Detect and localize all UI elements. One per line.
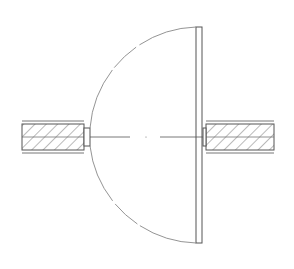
center-line [90, 136, 203, 137]
door-plan-svg [0, 0, 294, 269]
left-wall [22, 121, 90, 153]
door-leaf [196, 27, 202, 243]
door-swing-arc [90, 27, 196, 243]
right-wall [203, 121, 274, 153]
left-jamb [84, 128, 90, 146]
right-jamb [203, 128, 206, 146]
cad-drawing [0, 0, 294, 269]
